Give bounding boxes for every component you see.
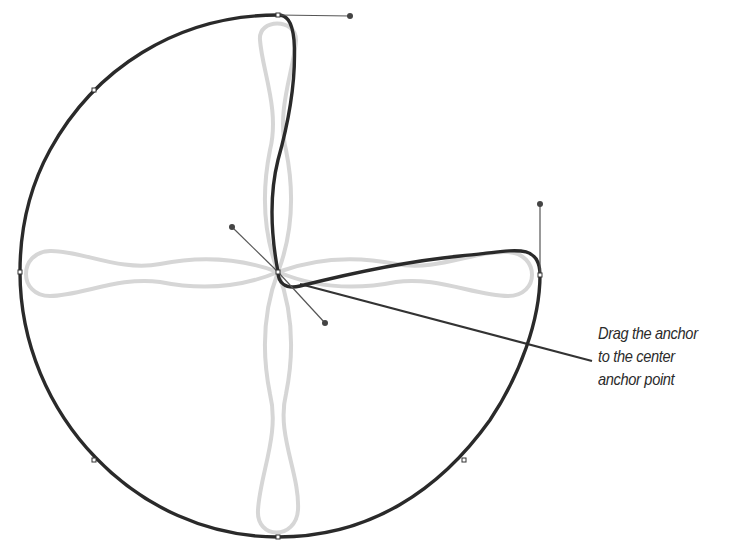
anchor-point-bottom[interactable]	[276, 535, 280, 539]
callout-line-2: to the center	[598, 345, 712, 368]
callout-line-3: anchor point	[598, 368, 712, 391]
callout-text: Drag the anchor to the center anchor poi…	[598, 322, 712, 391]
anchor-point-center[interactable]	[276, 270, 280, 274]
callout-line-1: Drag the anchor	[598, 322, 712, 345]
anchor-point-left[interactable]	[18, 270, 22, 274]
direction-handle-right[interactable]	[537, 201, 543, 207]
direction-handle-center-out[interactable]	[322, 320, 328, 326]
anchor-point-right[interactable]	[538, 273, 542, 277]
ghost-petal-top	[260, 24, 296, 273]
diagram-canvas	[0, 0, 731, 547]
direction-handle-center-in[interactable]	[229, 224, 235, 230]
handle-line-top	[278, 15, 350, 16]
anchor-point-lower-right[interactable]	[462, 458, 466, 462]
anchor-point-lower-left[interactable]	[92, 458, 96, 462]
ghost-petal-left	[26, 251, 278, 296]
anchor-point-top[interactable]	[276, 13, 280, 17]
ghost-petal-bottom	[258, 272, 298, 533]
anchor-point-upper-left[interactable]	[92, 88, 96, 92]
callout-leader-line	[300, 284, 592, 361]
direction-handle-top[interactable]	[347, 13, 353, 19]
